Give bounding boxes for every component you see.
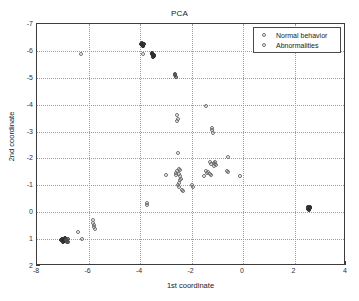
legend-item-label: Normal behavior [272,32,327,39]
legend-item-label: Abnormalities [272,42,318,49]
x-axis-tick-label: -6 [84,267,90,274]
data-point [179,177,183,181]
circle-marker-icon [256,33,272,37]
data-point [76,230,80,234]
y-axis-tick-label: -6 [27,46,33,53]
x-axis-tick-label: 0 [240,267,244,274]
x-axis-tick-label: -4 [136,267,142,274]
gridline-horizontal [37,132,344,133]
data-point [238,174,242,178]
x-axis-tick [345,261,346,265]
page-title: PCA [0,9,359,18]
data-point [141,52,145,56]
data-point [175,119,179,123]
y-axis-tick [36,265,40,266]
gridline-horizontal [37,158,344,159]
data-point [211,131,215,135]
data-point [80,237,84,241]
gridline-horizontal [37,105,344,106]
data-point [202,174,206,178]
circle-marker-icon [256,43,272,47]
data-point [176,151,180,155]
data-point [91,221,95,225]
chart-legend: Normal behaviorAbnormalities [253,27,341,53]
data-point [210,126,214,130]
y-axis-tick-label: -7 [27,20,33,27]
data-point [93,227,97,231]
data-point [181,189,185,193]
data-point [164,173,168,177]
data-point [204,104,208,108]
gridline-vertical [243,24,244,264]
y-axis-label: 2nd coordinate [7,97,16,177]
data-point [214,163,218,167]
x-axis-tick-label: 2 [292,267,296,274]
gridline-vertical [192,24,193,264]
data-point [145,203,149,207]
data-point [79,52,83,56]
y-axis-tick-label: -5 [27,73,33,80]
legend-item[interactable]: Abnormalities [256,40,337,50]
y-axis-tick-label: -4 [27,100,33,107]
gridline-vertical [295,24,296,264]
y-axis-tick-label: 0 [29,208,33,215]
gridline-horizontal [37,212,344,213]
x-axis-tick-label: -8 [33,267,39,274]
data-point [66,240,70,244]
legend-item[interactable]: Normal behavior [256,30,337,40]
gridline-vertical [140,24,141,264]
pca-scatter-figure: PCA 2nd coordinate 1st coordinate -8-6-4… [0,0,359,301]
y-axis-tick-label: -3 [27,127,33,134]
data-point [308,206,312,210]
plot-area [36,23,345,265]
y-axis-tick-label: -2 [27,154,33,161]
data-point [191,185,195,189]
x-axis-label: 1st coordinate [36,281,345,290]
y-axis-tick-label: -1 [27,181,33,188]
x-axis-tick-label: -2 [187,267,193,274]
data-point [209,173,213,177]
data-point [173,72,177,76]
data-point [142,42,146,46]
y-axis-tick-label: 2 [29,262,33,269]
gridline-vertical [89,24,90,264]
x-axis-tick-label: 4 [343,267,347,274]
y-axis-tick-label: 1 [29,235,33,242]
gridline-horizontal [37,78,344,79]
data-point [226,170,230,174]
